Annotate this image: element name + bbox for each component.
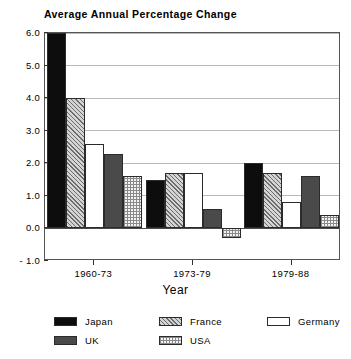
gridline [45, 130, 339, 131]
chart-title: Average Annual Percentage Change [44, 8, 237, 20]
y-tick-label: 3.0 [6, 124, 40, 135]
y-tick-mark [44, 32, 48, 33]
y-tick-label: 2.0 [6, 157, 40, 168]
x-tick-mark [192, 260, 193, 265]
gridline [45, 33, 339, 34]
y-tick-label: 0.0 [6, 222, 40, 233]
x-tick-label: 1973-79 [173, 268, 211, 279]
bar-usa-1960-73 [123, 176, 142, 228]
x-tick-label: 1979-88 [272, 268, 310, 279]
y-tick-mark [44, 97, 48, 98]
y-tick-mark [44, 227, 48, 228]
bar-chart: Average Annual Percentage Change 6.05.04… [0, 0, 351, 359]
y-tick-mark [44, 130, 48, 131]
legend-item-uk: UK [54, 335, 99, 346]
legend-label: USA [190, 335, 211, 346]
x-tick-label: 1960-73 [74, 268, 112, 279]
gridline [45, 98, 339, 99]
legend-swatch-france [159, 317, 182, 326]
legend-label: Germany [298, 316, 340, 327]
bar-germany-1960-73 [85, 144, 104, 229]
y-tick-mark [44, 162, 48, 163]
bar-germany-1973-79 [184, 173, 203, 228]
bar-france-1979-88 [263, 173, 282, 228]
legend-swatch-usa [159, 336, 182, 345]
legend-item-france: France [159, 316, 222, 327]
legend-label: Japan [85, 316, 113, 327]
y-tick-label: - 1.0 [6, 255, 40, 266]
legend-swatch-japan [54, 317, 77, 326]
bar-uk-1973-79 [203, 209, 222, 229]
gridline [45, 65, 339, 66]
x-tick-mark [93, 260, 94, 265]
legend-item-usa: USA [159, 335, 211, 346]
legend-item-japan: Japan [54, 316, 113, 327]
legend-item-germany: Germany [267, 316, 340, 327]
y-tick-mark [44, 260, 48, 261]
plot-area [44, 32, 340, 260]
x-axis-title: Year [0, 283, 351, 297]
legend-swatch-uk [54, 336, 77, 345]
chart-legend: JapanFranceGermanyUKUSA [54, 316, 344, 354]
bar-usa-1979-88 [320, 215, 339, 228]
y-tick-mark [44, 195, 48, 196]
bar-usa-1973-79 [222, 228, 241, 238]
bar-germany-1979-88 [282, 202, 301, 228]
legend-label: France [190, 316, 222, 327]
y-tick-label: 4.0 [6, 92, 40, 103]
bar-france-1973-79 [165, 173, 184, 228]
y-tick-label: 6.0 [6, 27, 40, 38]
y-tick-label: 1.0 [6, 189, 40, 200]
y-tick-label: 5.0 [6, 59, 40, 70]
bar-uk-1960-73 [104, 154, 123, 229]
y-tick-mark [44, 65, 48, 66]
legend-label: UK [85, 335, 99, 346]
bar-japan-1960-73 [47, 33, 66, 228]
bar-france-1960-73 [66, 98, 85, 228]
legend-swatch-germany [267, 317, 290, 326]
bar-japan-1973-79 [146, 180, 165, 229]
bar-japan-1979-88 [244, 163, 263, 228]
bar-uk-1979-88 [301, 176, 320, 228]
x-tick-mark [291, 260, 292, 265]
y-axis: 6.05.04.03.02.01.00.0- 1.0 [0, 32, 40, 260]
